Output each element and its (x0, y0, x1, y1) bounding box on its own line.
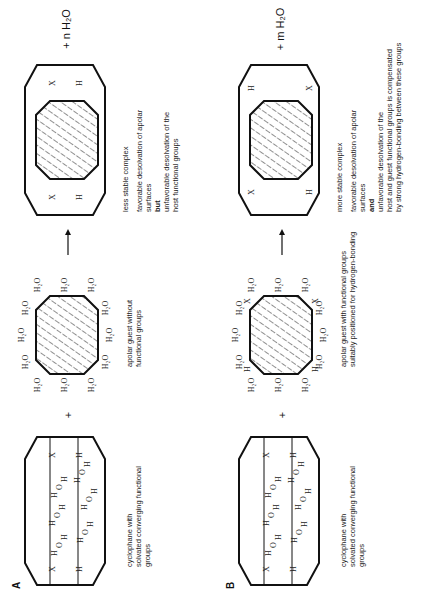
released-water: + m H₂O (274, 7, 286, 50)
complex-caption-line: and (367, 198, 376, 212)
water-molecule: H₂O (87, 378, 96, 393)
water-hydrogen: H (274, 476, 283, 482)
water-hydrogen: H (60, 534, 69, 540)
water-oxygen: O (269, 484, 278, 490)
water-molecule: H₂O (101, 355, 110, 370)
water-oxygen: O (85, 496, 94, 502)
water-molecule: H₂O (301, 378, 310, 393)
host-caption-line: cyclophane with (125, 514, 134, 567)
water-molecule: H₂O (17, 328, 26, 343)
complex-group-x: X (48, 194, 57, 200)
host-group-x: X (48, 566, 57, 572)
host-group-h: H (289, 566, 298, 572)
water-hydrogen: H (58, 504, 67, 510)
water-molecule: H₂O (60, 378, 69, 393)
complex-group-h: H (305, 189, 314, 195)
water-oxygen: O (267, 512, 276, 518)
complex-group-x: X (48, 80, 57, 86)
host-caption-line: groups (143, 544, 152, 567)
water-hydrogen: H (297, 461, 306, 467)
guest-caption-line: functional groups (134, 310, 143, 367)
guest-group-x: X (243, 298, 252, 304)
guest-caption-line: apolar guest with functional groups (339, 251, 348, 367)
water-hydrogen: H (272, 504, 281, 510)
complex-caption-line: unfavorable desolvation of the (376, 112, 385, 212)
water-molecule: H₂O (319, 328, 328, 343)
water-molecule: H₂O (87, 278, 96, 293)
water-oxygen: O (299, 496, 308, 502)
water-hydrogen: H (264, 550, 273, 556)
guest-group-x: X (311, 298, 320, 304)
water-hydrogen: H (304, 488, 313, 494)
water-hydrogen: H (274, 534, 283, 540)
host-group-h: H (75, 452, 84, 458)
water-oxygen: O (292, 469, 301, 475)
water-hydrogen: H (80, 504, 89, 510)
apolar-guest (36, 296, 98, 374)
water-hydrogen: H (287, 477, 296, 483)
bound-guest (250, 101, 312, 179)
complex-group-h: H (75, 194, 84, 200)
water-molecule: H₂O (105, 328, 114, 343)
complex-group-x: X (247, 189, 256, 195)
host-caption-line: solvated converging functional (348, 466, 357, 567)
host-group-x: X (48, 452, 57, 458)
diagram-stage: AXXHHOHHOHHOHHOHHOHHOHHcyclophane withso… (0, 0, 429, 607)
complex-group-x: X (305, 85, 314, 91)
host-guest-diagram: AXXHHOHHOHHOHHOHHOHHOHHcyclophane withso… (0, 0, 429, 607)
complex-caption-line: favorable desolvation of apolar (135, 109, 144, 212)
host-caption-line: solvated converging functional (134, 466, 143, 567)
water-hydrogen: H (264, 492, 273, 498)
panel-letter: B (225, 582, 236, 589)
water-oxygen: O (55, 484, 64, 490)
plus-sign: + (62, 412, 74, 418)
guest-group-h: H (243, 366, 252, 372)
water-oxygen: O (295, 529, 304, 535)
water-molecule: H₂O (247, 378, 256, 393)
panel-a: AXXHHOHHOHHOHHOHHOHHOHHcyclophane withso… (11, 9, 180, 589)
complex-group-h: H (75, 80, 84, 86)
water-molecule: H₂O (231, 328, 240, 343)
released-water: + n H₂O (60, 9, 72, 49)
water-hydrogen: H (73, 477, 82, 483)
water-molecule: H₂O (274, 278, 283, 293)
guest-caption-line: suitably positioned for hydrogen-bonding (348, 232, 357, 367)
water-molecule: H₂O (33, 278, 42, 293)
water-hydrogen: H (86, 521, 95, 527)
host-group-x: X (262, 452, 271, 458)
complex-caption-line: but (153, 200, 162, 212)
water-oxygen: O (269, 542, 278, 548)
water-hydrogen: H (76, 537, 85, 543)
water-oxygen: O (81, 529, 90, 535)
water-molecule: H₂O (301, 278, 310, 293)
water-oxygen: O (78, 469, 87, 475)
water-molecule: H₂O (60, 278, 69, 293)
panel-letter: A (11, 582, 22, 589)
complex-stability-label: more stable complex (335, 143, 344, 212)
host-group-h: H (75, 566, 84, 572)
complex-caption-line: by strong hydrogen-bonding between these… (394, 42, 403, 212)
complex-stability-label: less stable complex (121, 146, 130, 212)
water-molecule: H₂O (247, 278, 256, 293)
host-cyclophane (239, 437, 319, 585)
complex-caption-line: favorable desolvation of apolar (349, 109, 358, 212)
water-hydrogen: H (50, 550, 59, 556)
water-molecule: H₂O (274, 378, 283, 393)
water-hydrogen: H (90, 488, 99, 494)
water-hydrogen: H (294, 504, 303, 510)
guest-group-h: H (311, 366, 320, 372)
apolar-guest (250, 296, 312, 374)
water-hydrogen: H (290, 537, 299, 543)
host-cyclophane (25, 437, 105, 585)
complex-caption-line: unfavorable desolvation of the (162, 112, 171, 212)
water-hydrogen: H (48, 520, 57, 526)
complex-caption-line: host functional groups (171, 138, 180, 212)
host-group-h: H (289, 452, 298, 458)
plus-sign: + (276, 412, 288, 418)
water-molecule: H₂O (21, 301, 30, 316)
water-hydrogen: H (83, 461, 92, 467)
panel-b: BXXHHOHHOHHOHHOHHOHHOHHcyclophane withso… (225, 7, 403, 589)
water-molecule: H₂O (101, 301, 110, 316)
complex-group-h: H (247, 85, 256, 91)
reaction-arrowhead (65, 229, 71, 235)
